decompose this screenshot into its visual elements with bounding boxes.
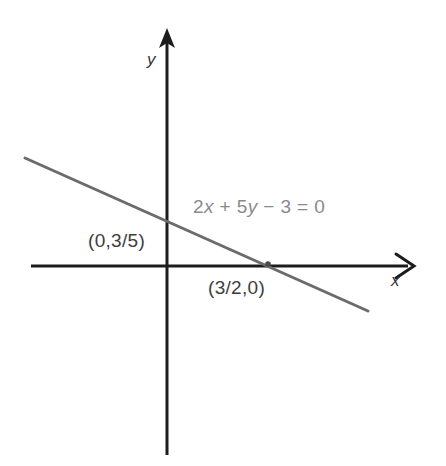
y-intercept-label: (0,3/5) [88, 231, 145, 250]
equation-var-x: x [204, 196, 214, 217]
equation-var-y: y [248, 196, 258, 217]
y-axis-label: y [147, 51, 156, 68]
line-graph-figure: y x (0,3/5) (3/2,0) 2x + 5y − 3 = 0 [0, 0, 446, 466]
x-axis-label: x [391, 272, 400, 289]
x-intercept-dot [265, 261, 271, 267]
equation-plus: + [214, 196, 237, 217]
x-intercept-label: (3/2,0) [208, 278, 265, 297]
coordinate-plane-svg [0, 0, 446, 466]
line-equation-label: 2x + 5y − 3 = 0 [193, 197, 325, 216]
equation-tail: − 3 = 0 [258, 196, 326, 217]
plotted-line [25, 158, 368, 311]
equation-coef-x: 2 [193, 196, 204, 217]
equation-coef-y: 5 [237, 196, 248, 217]
